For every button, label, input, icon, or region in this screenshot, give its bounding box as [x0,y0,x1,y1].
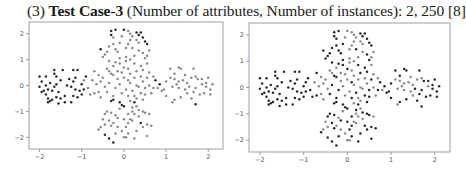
data-point [296,90,299,93]
data-point [188,86,191,89]
data-point [364,67,367,70]
data-point [112,74,115,77]
data-point [418,93,421,96]
data-point [129,32,132,35]
data-point [146,54,149,57]
data-point [114,29,117,32]
data-point [272,101,275,104]
data-point [112,43,115,46]
data-point [110,30,113,32]
data-point [348,90,351,93]
data-point [93,92,96,95]
data-point [318,85,321,88]
data-point [322,98,325,101]
data-point [173,99,176,102]
data-point [142,80,145,83]
data-point [337,89,340,92]
data-point [53,86,56,89]
data-point [121,92,124,95]
data-point [342,64,345,67]
data-point [184,74,187,77]
data-point [104,86,107,89]
data-point [173,73,176,76]
data-point [366,128,369,131]
data-point [203,92,206,95]
data-point [61,69,64,72]
data-point [99,48,102,51]
data-point [135,130,138,133]
data-point [337,117,340,120]
data-point [64,101,67,104]
data-point [372,115,375,118]
data-point [374,127,377,130]
data-point [140,122,143,125]
data-point [348,61,351,64]
data-point [335,67,338,70]
y-tick-label: −2 [14,134,24,142]
data-point [91,79,94,82]
data-point [329,113,332,116]
data-point [333,114,336,117]
data-point [135,39,138,42]
data-point [357,64,360,67]
data-point [140,75,143,78]
data-point [361,118,364,121]
data-point [199,93,202,96]
data-point [396,88,399,91]
data-point [364,94,367,97]
data-point [346,78,349,81]
data-point [353,34,356,37]
data-point [368,59,371,62]
data-point [381,89,384,92]
data-point [76,96,79,99]
data-point [267,103,270,106]
data-point [300,92,303,95]
data-point [276,85,279,88]
plot-frame [29,22,223,149]
data-point [344,94,347,97]
data-point [272,92,275,95]
data-point [127,43,130,46]
data-point [350,81,353,84]
data-point [112,122,115,125]
data-point [118,62,121,65]
data-point [121,104,124,107]
data-point [47,97,50,100]
data-point [261,82,264,85]
data-point [186,82,189,85]
data-point [333,31,336,34]
data-point [344,106,347,109]
data-point [276,77,279,80]
data-point [45,84,48,87]
data-point [359,99,362,102]
data-point [182,79,185,82]
data-point [108,45,111,48]
data-point [133,101,136,104]
data-point [331,122,334,125]
data-point [267,99,270,102]
data-point [274,88,277,91]
data-point [350,31,353,34]
data-point [359,32,362,35]
data-point [412,84,415,87]
data-point [194,103,197,106]
data-point [169,67,172,70]
data-point [298,70,301,73]
y-tick-label: 2 [20,30,24,38]
data-point [133,113,136,116]
data-point [99,80,102,83]
data-point [127,67,130,70]
data-point [137,41,140,44]
y-tick-label: 1 [20,56,24,64]
data-point [407,81,410,84]
data-point [201,83,204,86]
data-point [396,103,399,106]
data-point [194,75,197,78]
data-point [133,95,136,98]
data-point [337,135,340,138]
data-point [357,103,360,106]
data-point [420,105,423,108]
data-point [350,124,353,127]
data-point [53,73,56,76]
